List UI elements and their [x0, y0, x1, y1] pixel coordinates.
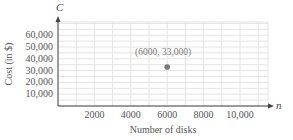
x-tick-label: 8000 — [194, 110, 214, 120]
x-tick-label: 4000 — [121, 110, 141, 120]
y-tick-label: 60,000 — [0, 30, 53, 40]
y-axis-arrow-icon — [56, 16, 61, 22]
x-axis-variable: n — [276, 100, 282, 110]
x-tick-label: 2000 — [84, 110, 104, 120]
point-label: (6000, 33,000) — [135, 47, 191, 57]
y-tick-label: 10,000 — [0, 89, 53, 99]
x-axis-arrow-icon — [268, 104, 274, 109]
y-axis-label: Cost (in $) — [3, 43, 14, 86]
data-point — [164, 64, 170, 70]
x-tick-label: 10,000 — [226, 110, 254, 120]
data-points — [164, 64, 170, 70]
x-axis-label: Number of disks — [130, 124, 197, 135]
grid-lines — [58, 22, 268, 106]
x-tick-label: 6000 — [157, 110, 177, 120]
chart: C n 10,00020,00030,00040,00050,00060,000… — [0, 0, 293, 140]
y-axis-variable: C — [56, 2, 63, 12]
